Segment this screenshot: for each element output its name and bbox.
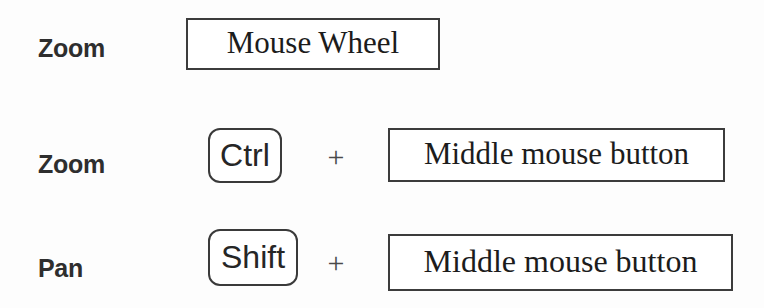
- key-cap-label: Shift: [221, 241, 285, 273]
- key-cap-shift: Shift: [208, 229, 298, 286]
- input-box-label: Middle mouse button: [424, 138, 689, 169]
- plus-separator-icon: +: [321, 142, 351, 172]
- key-cap-ctrl: Ctrl: [208, 128, 282, 183]
- action-label-zoom-ctrl: Zoom: [38, 152, 105, 177]
- input-box-label: Middle mouse button: [424, 245, 698, 277]
- input-box-middle-mouse-button-zoom: Middle mouse button: [388, 128, 725, 182]
- input-box-middle-mouse-button-pan: Middle mouse button: [388, 234, 733, 291]
- plus-separator-icon: +: [321, 248, 351, 278]
- shortcut-reference-sheet: Zoom Mouse Wheel Zoom Ctrl + Middle mous…: [0, 0, 764, 308]
- action-label-pan-shift: Pan: [38, 256, 83, 281]
- input-box-mouse-wheel: Mouse Wheel: [186, 18, 440, 70]
- key-cap-label: Ctrl: [220, 139, 270, 171]
- input-box-label: Mouse Wheel: [227, 27, 399, 58]
- action-label-zoom-wheel: Zoom: [38, 36, 105, 61]
